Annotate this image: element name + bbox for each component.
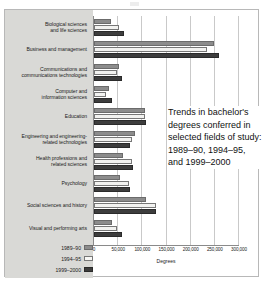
bar[interactable] bbox=[94, 53, 219, 58]
bar-group bbox=[94, 108, 146, 126]
category-label: Health professions andrelated sciences bbox=[5, 155, 87, 167]
category-label-line: Visual and performing arts bbox=[5, 225, 87, 231]
bar[interactable] bbox=[94, 114, 145, 119]
bar[interactable] bbox=[94, 226, 117, 231]
chart-figure: Biological sciencesand life sciencesBusi… bbox=[0, 0, 264, 281]
bar[interactable] bbox=[94, 197, 146, 202]
bar[interactable] bbox=[94, 41, 214, 46]
legend-label: 1994–95 bbox=[61, 256, 81, 262]
category-label-line: and life sciences bbox=[5, 27, 87, 33]
legend-swatch-icon bbox=[84, 267, 93, 272]
x-axis-title: Degrees bbox=[93, 258, 239, 264]
category-label-line: communications technologies bbox=[5, 72, 87, 78]
decorative-speck bbox=[130, 2, 139, 6]
bar[interactable] bbox=[94, 159, 132, 164]
legend-item[interactable]: 1994–95 bbox=[11, 253, 93, 264]
bar-group bbox=[94, 220, 122, 238]
category-label: Biological sciencesand life sciences bbox=[5, 21, 87, 33]
category-label: Communications andcommunications technol… bbox=[5, 66, 87, 78]
category-label-line: related technologies bbox=[5, 139, 87, 145]
bar[interactable] bbox=[94, 70, 117, 75]
x-tick-label: 300,000 bbox=[224, 247, 254, 252]
category-label: Psychology bbox=[5, 180, 87, 186]
category-label: Business and management bbox=[5, 46, 87, 52]
legend-item[interactable]: 1999–2000 bbox=[11, 264, 93, 275]
category-label-line: Psychology bbox=[5, 180, 87, 186]
bar[interactable] bbox=[94, 108, 145, 113]
x-axis-line bbox=[93, 245, 239, 246]
category-label-line: Social sciences and history bbox=[5, 202, 87, 208]
category-label: Computer andinformation sciences bbox=[5, 88, 87, 100]
bar[interactable] bbox=[94, 86, 109, 91]
bar-group bbox=[94, 41, 219, 59]
bar[interactable] bbox=[94, 31, 124, 36]
legend-swatch-icon bbox=[84, 256, 93, 261]
bar-group bbox=[94, 19, 124, 37]
legend-label: 1999–2000 bbox=[56, 267, 82, 273]
category-label-line: Business and management bbox=[5, 46, 87, 52]
bar-group bbox=[94, 153, 133, 171]
bar[interactable] bbox=[94, 64, 119, 69]
bar[interactable] bbox=[94, 187, 130, 192]
bar[interactable] bbox=[94, 137, 132, 142]
bar-group bbox=[94, 197, 156, 215]
bar[interactable] bbox=[94, 47, 207, 52]
bar[interactable] bbox=[94, 209, 156, 214]
bar[interactable] bbox=[94, 25, 119, 30]
bar-group bbox=[94, 175, 130, 193]
legend-item[interactable]: 1989–90 bbox=[11, 242, 93, 253]
bar-group bbox=[94, 86, 112, 104]
bar[interactable] bbox=[94, 175, 120, 180]
chart-panel: Biological sciencesand life sciencesBusi… bbox=[4, 9, 259, 277]
bar[interactable] bbox=[94, 19, 111, 24]
bar[interactable] bbox=[94, 143, 130, 148]
bar[interactable] bbox=[94, 220, 112, 225]
bar-group bbox=[94, 64, 122, 82]
chart-caption: Trends in bachelor's degrees conferred i… bbox=[168, 106, 263, 169]
legend-label: 1989–90 bbox=[61, 245, 81, 251]
category-label-line: Education bbox=[5, 113, 87, 119]
bar[interactable] bbox=[94, 92, 106, 97]
bar[interactable] bbox=[94, 131, 135, 136]
bar[interactable] bbox=[94, 120, 146, 125]
legend-swatch-icon bbox=[84, 245, 93, 250]
category-label: Education bbox=[5, 113, 87, 119]
category-label-line: information sciences bbox=[5, 94, 87, 100]
bar[interactable] bbox=[94, 203, 156, 208]
legend: 1989–90 1994–95 1999–2000 bbox=[11, 242, 93, 275]
bar-group bbox=[94, 131, 135, 149]
category-label-line: related sciences bbox=[5, 161, 87, 167]
bar[interactable] bbox=[94, 181, 129, 186]
category-label: Visual and performing arts bbox=[5, 225, 87, 231]
category-label: Social sciences and history bbox=[5, 202, 87, 208]
bar[interactable] bbox=[94, 153, 123, 158]
bar[interactable] bbox=[94, 76, 122, 81]
category-label: Engineering and engineering-related tech… bbox=[5, 133, 87, 145]
bar[interactable] bbox=[94, 98, 112, 103]
bar[interactable] bbox=[94, 232, 122, 237]
bar[interactable] bbox=[94, 165, 133, 170]
